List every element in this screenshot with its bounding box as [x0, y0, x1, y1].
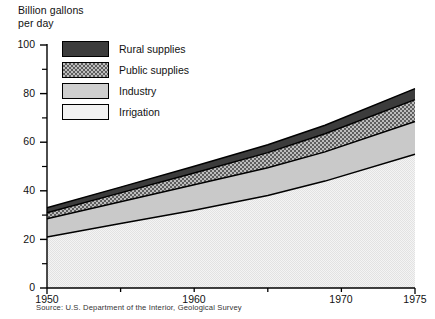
legend-swatch-rural-supplies	[62, 41, 109, 57]
y-tick-label-20: 20	[9, 234, 35, 245]
x-tick-label-1975: 1975	[392, 294, 435, 305]
legend-item-rural-supplies: Rural supplies	[62, 39, 189, 59]
chart-root: Billion gallonsper day	[0, 0, 435, 319]
legend-label-industry: Industry	[119, 85, 156, 97]
legend-swatch-industry	[62, 83, 109, 99]
y-tick-label-100: 100	[9, 39, 35, 50]
x-tick-label-1970: 1970	[318, 294, 364, 305]
y-tick-label-60: 60	[9, 136, 35, 147]
legend-item-public-supplies: Public supplies	[62, 60, 189, 80]
y-tick-label-0: 0	[9, 282, 35, 293]
y-tick-label-40: 40	[9, 185, 35, 196]
legend-swatch-public-supplies	[62, 62, 109, 78]
y-tick-label-80: 80	[9, 88, 35, 99]
legend-item-irrigation: Irrigation	[62, 102, 189, 122]
legend-swatch-irrigation	[62, 104, 109, 120]
y-axis-minor-ticks	[42, 69, 47, 263]
legend-label-irrigation: Irrigation	[119, 106, 160, 118]
source-note: Source: U.S. Department of the Interior,…	[36, 303, 242, 312]
legend: Rural supplies Public supplies Industry …	[62, 39, 189, 123]
legend-item-industry: Industry	[62, 81, 189, 101]
legend-label-rural-supplies: Rural supplies	[119, 43, 186, 55]
legend-label-public-supplies: Public supplies	[119, 64, 189, 76]
